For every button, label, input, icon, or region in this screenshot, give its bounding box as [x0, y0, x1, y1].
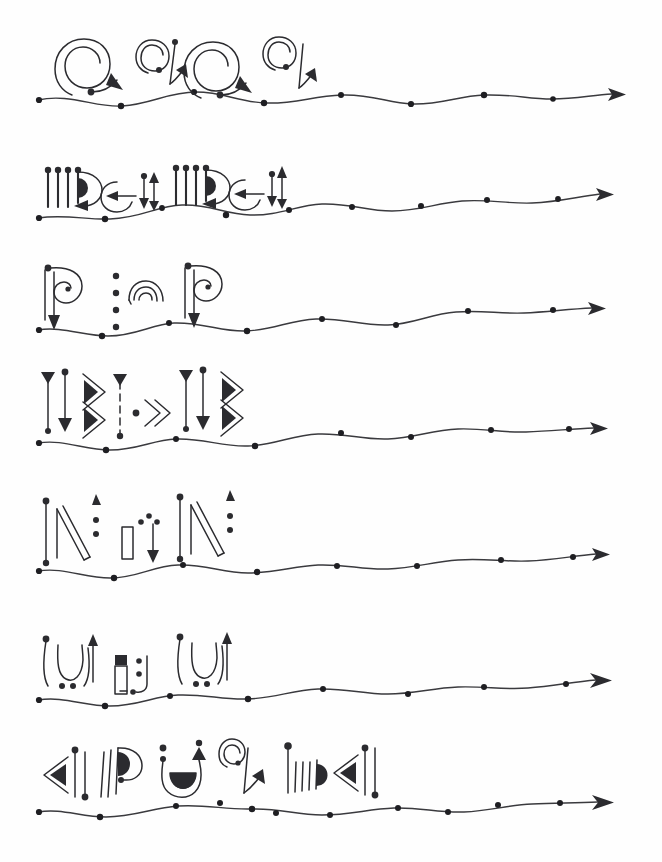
glyph-circle-with-left-arrow-and-double-arrow-2 [229, 166, 287, 210]
glyph-circle-with-left-arrow-and-double-arrow [101, 172, 159, 212]
glyph-spiral-small-with-up-arrow-2 [263, 37, 317, 88]
glyph-left-chevron-with-pin-stems [44, 747, 88, 801]
glyph-four-dots-with-nested-arcs [113, 273, 163, 330]
line-7-baseline-group [36, 795, 614, 820]
glyph-double-stem-with-double-chevron [41, 369, 105, 438]
line-6 [36, 632, 612, 709]
script-canvas [0, 0, 662, 862]
glyph-spiral-with-up-arrow [219, 739, 265, 793]
glyph-tall-rect-with-dots-and-hook [115, 655, 147, 695]
glyph-triple-stem-with-half-disc-2 [173, 165, 230, 209]
line-7 [36, 739, 614, 820]
glyph-spiral-bowl-with-down-arrow [45, 265, 82, 330]
baseline-wave [38, 680, 596, 706]
glyph-comb-with-half-disc [284, 742, 327, 793]
baseline-wave [38, 308, 592, 336]
manuscript-page: Asemic Script Manuscript [0, 0, 662, 862]
glyph-left-chevron-with-pin-stems-2 [334, 745, 378, 799]
line-3 [36, 263, 606, 340]
line-3-baseline-group [36, 302, 606, 339]
line-2 [36, 165, 614, 222]
baseline-wave [38, 428, 594, 450]
line-5 [36, 490, 610, 581]
glyph-triple-stem-with-half-disc [45, 167, 102, 211]
glyph-u-cup-with-up-arrow-and-dots-2 [177, 632, 232, 687]
glyph-slanted-bar-with-triangle-and-dots-2 [177, 490, 235, 562]
line-4 [36, 367, 608, 454]
glyph-small-rect-with-dots-and-down-arrow [122, 513, 160, 563]
line-1-baseline-group [36, 88, 626, 109]
glyph-spiral-large-with-down-arrow [55, 39, 123, 95]
glyph-double-stem-with-double-chevron-2 [179, 367, 243, 436]
glyph-u-vessel-with-dots-and-triangle [160, 740, 206, 797]
glyph-slanted-bar-with-triangle-and-dots [43, 494, 101, 566]
baseline-wave [38, 92, 612, 106]
line-1 [36, 37, 626, 109]
baseline-dots [36, 681, 569, 709]
glyph-double-line-with-half-disc-bowl [101, 748, 142, 797]
baseline-dots [36, 554, 576, 581]
line-2-baseline-group [36, 188, 614, 222]
glyph-spiral-bowl-with-down-arrow-2 [185, 263, 222, 328]
baseline-wave [38, 802, 598, 817]
glyph-u-cup-with-up-arrow-and-dots [43, 634, 98, 689]
glyph-dashed-stem-with-double-chevron [113, 374, 170, 439]
baseline-wave [38, 194, 600, 219]
glyph-spiral-small-with-up-arrow [136, 39, 188, 84]
